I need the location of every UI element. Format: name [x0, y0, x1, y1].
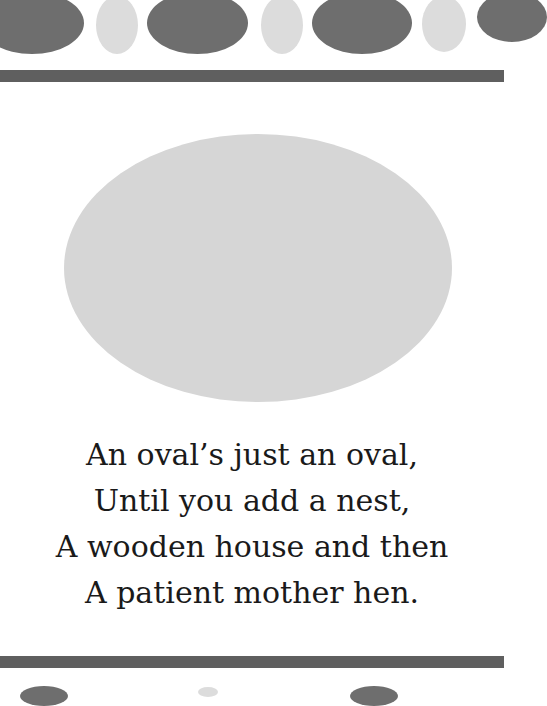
dark-oval-decoration — [312, 0, 412, 54]
poem-line: Until you add a nest, — [0, 478, 504, 524]
light-oval-decoration — [198, 687, 218, 697]
dark-oval-decoration — [477, 0, 547, 42]
light-oval-decoration — [422, 0, 466, 52]
dark-oval-decoration — [20, 686, 68, 706]
poem-text: An oval’s just an oval, Until you add a … — [0, 432, 504, 616]
dark-oval-decoration — [350, 686, 398, 706]
poem-line: A patient mother hen. — [0, 570, 504, 616]
dark-oval-decoration — [0, 0, 84, 54]
poem-line: A wooden house and then — [0, 524, 504, 570]
dark-oval-decoration — [147, 0, 248, 54]
light-oval-decoration — [96, 0, 138, 54]
light-oval-decoration — [261, 0, 303, 54]
poem-line: An oval’s just an oval, — [0, 432, 504, 478]
top-divider — [0, 70, 504, 82]
center-oval-illustration — [64, 134, 452, 402]
bottom-divider — [0, 656, 504, 668]
